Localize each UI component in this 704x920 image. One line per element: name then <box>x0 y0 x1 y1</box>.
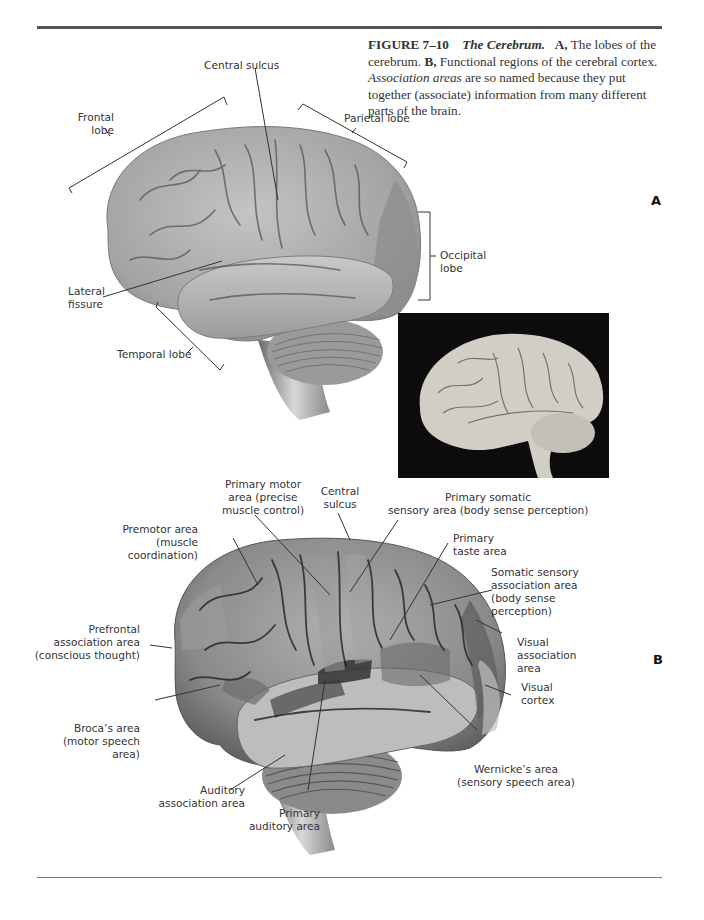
label-wernicke: Wernicke’s area (sensory speech area) <box>453 763 579 789</box>
label-primary-somatic: Primary somatic sensory area (body sense… <box>388 491 588 517</box>
label-broca-line1: Broca’s area <box>60 722 140 735</box>
label-primary-motor: Primary motor area (precise muscle contr… <box>218 478 308 517</box>
panel-letter-b: B <box>653 652 663 667</box>
label-somatic-assoc-line2: association area <box>491 579 579 592</box>
label-broca: Broca’s area (motor speech area) <box>60 722 140 761</box>
label-visual-assoc-line2: association <box>517 649 577 662</box>
label-visual-assoc-line1: Visual <box>517 636 577 649</box>
label-broca-line2: (motor speech <box>60 735 140 748</box>
label-somatic-assoc-line4: perception) <box>491 605 579 618</box>
label-primary-somatic-line1: Primary somatic <box>388 491 588 504</box>
label-visual-cortex: Visual cortex <box>521 681 554 707</box>
label-wernicke-line1: Wernicke’s area <box>453 763 579 776</box>
label-taste-line2: taste area <box>453 545 507 558</box>
label-occipital-lobe: Occipital lobe <box>440 249 486 275</box>
label-visual-assoc-line3: area <box>517 662 577 675</box>
brain-photo <box>398 313 609 478</box>
label-broca-line3: area) <box>60 748 140 761</box>
label-primary-motor-line3: muscle control) <box>218 504 308 517</box>
label-visual-cortex-line2: cortex <box>521 694 554 707</box>
label-occipital-line2: lobe <box>440 262 486 275</box>
label-frontal-line1: Frontal <box>62 111 114 124</box>
label-prefrontal-line1: Prefrontal <box>34 623 140 636</box>
label-prefrontal-line2: association area <box>34 636 140 649</box>
wernicke-region <box>380 643 450 687</box>
label-auditory-association: Auditory association area <box>150 784 245 810</box>
brain-a <box>107 127 421 420</box>
label-premotor-line3: coordination) <box>120 549 198 562</box>
label-parietal-lobe: Parietal lobe <box>344 112 410 125</box>
label-prefrontal: Prefrontal association area (conscious t… <box>34 623 140 662</box>
label-premotor-line2: (muscle <box>120 536 198 549</box>
label-taste-line1: Primary <box>453 532 507 545</box>
label-prefrontal-line3: (conscious thought) <box>34 649 140 662</box>
label-central-b-line1: Central <box>315 485 365 498</box>
label-wernicke-line2: (sensory speech area) <box>453 776 579 789</box>
label-premotor: Premotor area (muscle coordination) <box>120 523 198 562</box>
label-primary-taste: Primary taste area <box>453 532 507 558</box>
label-primary-motor-line2: area (precise <box>218 491 308 504</box>
panel-letter-a: A <box>651 193 661 208</box>
label-visual-cortex-line1: Visual <box>521 681 554 694</box>
bottom-rule <box>37 877 662 878</box>
label-primary-auditory-line1: Primary <box>240 807 320 820</box>
label-primary-motor-line1: Primary motor <box>218 478 308 491</box>
label-premotor-line1: Premotor area <box>120 523 198 536</box>
label-primary-somatic-line2: sensory area (body sense perception) <box>388 504 588 517</box>
label-central-b-line2: sulcus <box>315 498 365 511</box>
label-central-sulcus-a: Central sulcus <box>204 59 279 72</box>
label-frontal-lobe: Frontal lobe <box>62 111 114 137</box>
label-lateral-fissure: Lateral fissure <box>68 285 105 311</box>
label-primary-auditory-line2: auditory area <box>240 820 320 833</box>
label-primary-auditory: Primary auditory area <box>240 807 320 833</box>
label-auditory-assoc-line2: association area <box>150 797 245 810</box>
label-somatic-assoc-line1: Somatic sensory <box>491 566 579 579</box>
label-occipital-line1: Occipital <box>440 249 486 262</box>
label-visual-association: Visual association area <box>517 636 577 675</box>
label-somatic-assoc-line3: (body sense <box>491 592 579 605</box>
label-temporal-lobe: Temporal lobe <box>117 348 192 361</box>
label-somatic-association: Somatic sensory association area (body s… <box>491 566 579 618</box>
label-central-sulcus-b: Central sulcus <box>315 485 365 511</box>
label-lateral-line2: fissure <box>68 298 105 311</box>
label-frontal-line2: lobe <box>62 124 114 137</box>
label-lateral-line1: Lateral <box>68 285 105 298</box>
label-auditory-assoc-line1: Auditory <box>150 784 245 797</box>
